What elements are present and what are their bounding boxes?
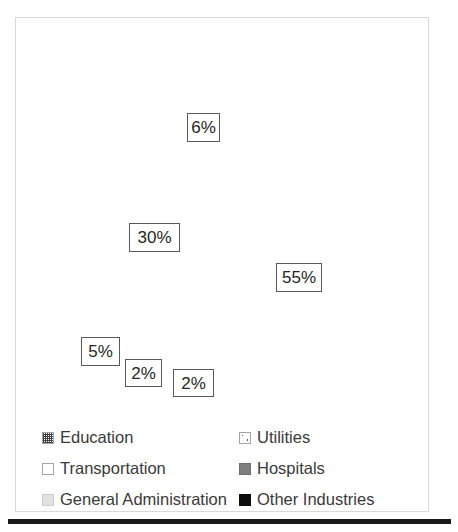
- plot-area: 55% 30% 6% 5% 2% 2% Education Utilities: [16, 18, 430, 513]
- data-label-education: 55%: [276, 263, 322, 292]
- legend-item-hospitals[interactable]: Hospitals: [239, 460, 402, 477]
- chart-frame: 55% 30% 6% 5% 2% 2% Education Utilities: [15, 17, 429, 512]
- legend-item-other-industries[interactable]: Other Industries: [239, 491, 402, 508]
- data-label-utilities: 2%: [173, 369, 214, 397]
- legend-item-utilities[interactable]: Utilities: [239, 429, 402, 446]
- legend-swatch-transportation-icon: [42, 463, 54, 475]
- legend-row: General Administration Other Industries: [42, 484, 402, 515]
- legend-label-transportation: Transportation: [60, 460, 166, 477]
- chart-legend: Education Utilities Transportation Hospi…: [42, 422, 402, 515]
- legend-label-other-industries: Other Industries: [257, 491, 374, 508]
- data-label-other-industries: 6%: [187, 113, 220, 142]
- legend-item-education[interactable]: Education: [42, 429, 239, 446]
- data-label-transportation: 2%: [125, 359, 162, 387]
- legend-swatch-utilities-icon: [239, 432, 251, 444]
- legend-label-general-administration: General Administration: [60, 491, 227, 508]
- legend-row: Education Utilities: [42, 422, 402, 453]
- legend-item-transportation[interactable]: Transportation: [42, 460, 239, 477]
- page-baseline-rule: [8, 519, 451, 524]
- legend-label-hospitals: Hospitals: [257, 460, 325, 477]
- legend-swatch-general-administration-icon: [42, 494, 54, 506]
- legend-swatch-hospitals-icon: [239, 463, 251, 475]
- legend-swatch-education-icon: [42, 432, 54, 444]
- legend-label-utilities: Utilities: [257, 429, 310, 446]
- data-label-hospitals: 5%: [81, 337, 120, 366]
- legend-row: Transportation Hospitals: [42, 453, 402, 484]
- legend-label-education: Education: [60, 429, 133, 446]
- legend-swatch-other-industries-icon: [239, 494, 251, 506]
- data-label-general-administration: 30%: [129, 223, 180, 252]
- legend-item-general-administration[interactable]: General Administration: [42, 491, 239, 508]
